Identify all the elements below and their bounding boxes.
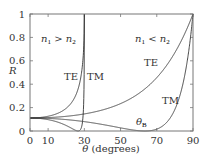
y-axis-label: R (8, 65, 17, 76)
y-tick-label: 0 (19, 126, 25, 137)
y-tick-label: 0.8 (9, 32, 25, 43)
label-n1-gt-n2: n1 > n2 (41, 33, 76, 46)
label-n1-lt-n2: n1 < n2 (135, 33, 170, 46)
y-tick-label: 1 (19, 9, 25, 20)
fresnel-reflectance-chart: 00.20.40.60.81 01030507090 R θ (degrees)… (0, 0, 207, 155)
curve-tm-n1-lt-n2 (30, 14, 193, 131)
x-axis-label: θ (degrees) (82, 143, 140, 154)
curve-te-n1-gt-n2 (30, 14, 84, 118)
label-te-n1-lt-n2: TE (144, 57, 158, 68)
y-tick-label: 0.4 (9, 79, 25, 90)
label-tm-n1-lt-n2: TM (162, 95, 179, 106)
y-tick-label: 0.2 (9, 102, 25, 113)
x-tick-label: 90 (187, 135, 200, 146)
x-tick-label: 70 (150, 135, 163, 146)
label-te-n1-gt-n2: TE (64, 71, 78, 82)
x-tick-label: 0 (27, 135, 33, 146)
label-brewster-angle: θB (136, 116, 147, 129)
curves (30, 14, 193, 131)
plot-frame (30, 14, 193, 131)
x-tick-label: 10 (42, 135, 55, 146)
label-tm-n1-gt-n2: TM (87, 71, 104, 82)
